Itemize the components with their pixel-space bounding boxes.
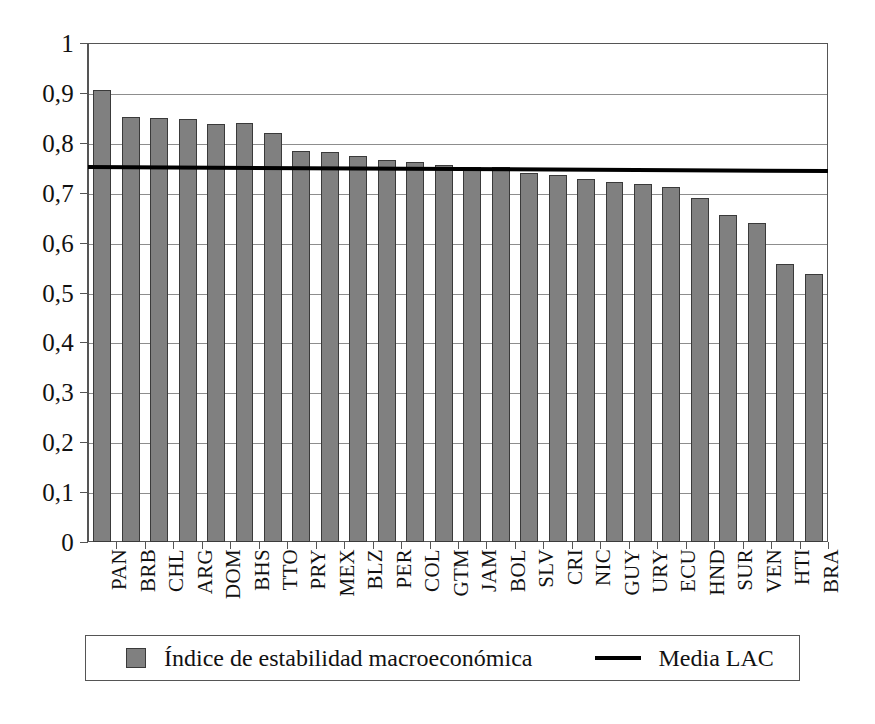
x-tick-mark (515, 542, 516, 549)
y-tick-label: 0,3 (42, 380, 74, 405)
bar-slot (520, 43, 538, 542)
y-tick-label: 0,8 (42, 130, 74, 155)
bar (520, 173, 538, 542)
legend-label-index: Índice de estabilidad macroeconómica (164, 646, 533, 670)
bar-slot (378, 43, 396, 542)
bar (179, 119, 197, 542)
bar (207, 124, 225, 542)
x-tick-mark (145, 542, 146, 549)
x-tick-label: SUR (735, 549, 756, 591)
x-tick-mark (572, 542, 573, 549)
bar-slot (691, 43, 709, 542)
bar (349, 156, 367, 542)
bar (577, 179, 595, 542)
legend-line-swatch-icon (595, 656, 641, 660)
bar (93, 90, 111, 542)
bar (691, 198, 709, 542)
legend-label-media-lac: Media LAC (659, 646, 774, 670)
y-tick-label: 0,7 (42, 180, 74, 205)
bar-slot (349, 43, 367, 542)
y-tick-label: 0,2 (42, 430, 74, 455)
bar (406, 162, 424, 542)
x-tick-mark (259, 542, 260, 549)
x-tick-label: PRY (308, 549, 329, 590)
bar (748, 223, 766, 542)
bar-slot (662, 43, 680, 542)
x-tick-mark (629, 542, 630, 549)
x-tick-mark (430, 542, 431, 549)
x-tick-mark (230, 542, 231, 549)
x-axis-labels: PANBRBCHLARGDOMBHSTTOPRYMEXBLZPERCOLGTMJ… (88, 549, 828, 629)
y-tick-label: 1 (61, 31, 74, 56)
bar-slot (292, 43, 310, 542)
x-tick-mark (173, 542, 174, 549)
y-tick-label: 0,9 (42, 80, 74, 105)
bar-slot (406, 43, 424, 542)
bar-slot (236, 43, 254, 542)
x-tick-label: GTM (451, 549, 472, 597)
y-axis: 00,10,20,30,40,50,60,70,80,91 (0, 0, 88, 560)
x-tick-mark (600, 542, 601, 549)
chart-figure: 00,10,20,30,40,50,60,70,80,91 PANBRBCHLA… (0, 0, 875, 724)
bar (321, 152, 339, 542)
x-tick-label: URY (650, 549, 671, 593)
x-tick-label: COL (422, 549, 443, 592)
bar (435, 165, 453, 542)
x-tick-label: VEN (764, 549, 785, 593)
bar (492, 167, 510, 542)
x-tick-mark (458, 542, 459, 549)
x-tick-label: HTI (792, 549, 813, 585)
bar-slot (634, 43, 652, 542)
y-tick-label: 0,4 (42, 330, 74, 355)
x-tick-mark (202, 542, 203, 549)
bar-slot (435, 43, 453, 542)
x-tick-mark (344, 542, 345, 549)
x-tick-label: JAM (479, 549, 500, 592)
x-tick-label: BOL (508, 549, 529, 592)
y-tick-label: 0,5 (42, 280, 74, 305)
x-tick-mark (714, 542, 715, 549)
x-tick-mark (116, 542, 117, 549)
bar-slot (577, 43, 595, 542)
bar (776, 264, 794, 542)
x-tick-label: ECU (678, 549, 699, 592)
y-tick-label: 0,6 (42, 230, 74, 255)
x-tick-mark (543, 542, 544, 549)
bar-slot (179, 43, 197, 542)
x-tick-label: BRB (138, 549, 159, 592)
x-tick-label: CHL (166, 549, 187, 592)
bar-slot (606, 43, 624, 542)
bar-slot (719, 43, 737, 542)
x-tick-label: TTO (280, 549, 301, 590)
bar-slot (748, 43, 766, 542)
chart-legend: Índice de estabilidad macroeconómica Med… (85, 635, 800, 681)
bar (634, 184, 652, 542)
x-tick-label: NIC (593, 549, 614, 586)
x-tick-mark (686, 542, 687, 549)
x-tick-mark (828, 542, 829, 549)
bar (549, 175, 567, 542)
bar (122, 117, 140, 542)
bar (606, 182, 624, 542)
x-tick-label: HND (707, 549, 728, 595)
bar-slot (492, 43, 510, 542)
bar (150, 118, 168, 542)
y-tick-label: 0 (61, 530, 74, 555)
bar-slot (264, 43, 282, 542)
x-tick-mark (287, 542, 288, 549)
x-tick-mark (401, 542, 402, 549)
y-tick-mark (80, 542, 88, 543)
x-tick-label: MEX (337, 549, 358, 597)
bar-series (88, 43, 828, 542)
bar (463, 167, 481, 542)
x-tick-label: BHS (252, 549, 273, 591)
x-tick-label: SLV (536, 549, 557, 588)
bar (719, 215, 737, 542)
x-tick-mark (800, 542, 801, 549)
x-tick-mark (657, 542, 658, 549)
x-tick-label: BRA (821, 549, 842, 593)
x-tick-label: DOM (223, 549, 244, 599)
legend-entry-index: Índice de estabilidad macroeconómica (126, 646, 533, 670)
bar-slot (321, 43, 339, 542)
bar (378, 160, 396, 542)
